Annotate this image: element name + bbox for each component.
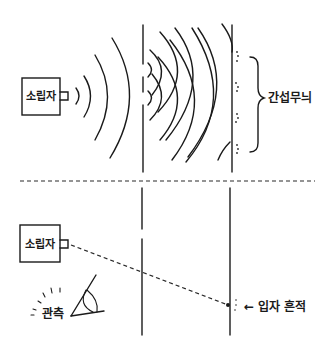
bottom-source-emitter: 소립자 — [20, 225, 68, 262]
particle-trace-dots — [234, 299, 237, 311]
interference-pattern-label: 간섭무늬 — [268, 90, 312, 105]
diffracted-wavefronts — [148, 24, 232, 162]
interference-pattern-dots — [235, 51, 239, 154]
incoming-wavefronts — [76, 38, 130, 158]
bottom-panel: 소립자 ← 입자 흔적 관측 — [20, 188, 306, 335]
particle-hit — [226, 303, 230, 307]
observer-label: 관측 — [42, 306, 64, 321]
curly-brace-icon — [250, 57, 264, 152]
eye-icon — [71, 275, 104, 316]
particle-trajectory — [71, 245, 228, 305]
double-slit-diagram: 소립자 — [0, 0, 331, 355]
bottom-source-nozzle — [60, 240, 68, 248]
top-source-label: 소립자 — [26, 89, 57, 103]
bottom-source-label: 소립자 — [25, 237, 56, 251]
top-source-emitter: 소립자 — [22, 78, 68, 115]
particle-trace-label: ← 입자 흔적 — [244, 299, 306, 314]
top-panel: 소립자 — [22, 24, 312, 172]
top-source-nozzle — [60, 92, 68, 100]
